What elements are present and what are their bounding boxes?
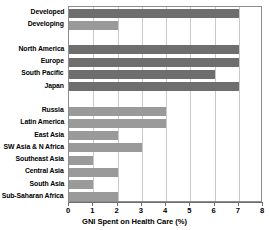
- bar: [69, 58, 239, 67]
- category-label: Sub-Saharan Africa: [2, 192, 64, 200]
- bar: [69, 192, 118, 201]
- x-tick-label: 2: [107, 206, 127, 215]
- category-label: Central Asia: [25, 167, 64, 175]
- bar: [69, 143, 142, 152]
- x-tick-label: 8: [252, 206, 269, 215]
- plot-area: [68, 6, 262, 202]
- category-label: Developed: [30, 8, 64, 16]
- bar: [69, 119, 166, 128]
- gridline-7: [239, 7, 240, 201]
- gridline-5: [190, 7, 191, 201]
- category-label: Russia: [42, 106, 64, 114]
- bar: [69, 70, 215, 79]
- bar: [69, 9, 239, 18]
- x-tick-label: 1: [82, 206, 102, 215]
- bar: [69, 168, 118, 177]
- x-tick-label: 6: [204, 206, 224, 215]
- bar-chart: DevelopedDevelopingNorth AmericaEuropeSo…: [0, 0, 269, 230]
- gridline-6: [215, 7, 216, 201]
- category-label: North America: [18, 45, 64, 53]
- category-label: South Asia: [29, 180, 64, 188]
- x-tick-label: 3: [131, 206, 151, 215]
- bar: [69, 82, 239, 91]
- gridline-4: [166, 7, 167, 201]
- category-label: Developing: [28, 20, 64, 28]
- bar: [69, 180, 93, 189]
- category-label: Southeast Asia: [16, 155, 64, 163]
- bar: [69, 21, 118, 30]
- bar: [69, 45, 239, 54]
- x-tick-label: 4: [155, 206, 175, 215]
- category-label: SW Asia & N Africa: [4, 143, 64, 151]
- gridline-2: [118, 7, 119, 201]
- category-label: East Asia: [34, 131, 64, 139]
- category-label: Japan: [45, 82, 64, 90]
- x-tick-label: 0: [58, 206, 78, 215]
- category-label: Latin America: [20, 118, 64, 126]
- category-label: South Pacific: [22, 69, 64, 77]
- bar: [69, 107, 166, 116]
- category-axis-labels: DevelopedDevelopingNorth AmericaEuropeSo…: [0, 6, 66, 202]
- x-tick-label: 5: [179, 206, 199, 215]
- x-tick-label: 7: [228, 206, 248, 215]
- gridline-3: [142, 7, 143, 201]
- bar: [69, 156, 93, 165]
- bar: [69, 131, 118, 140]
- category-label: Europe: [41, 57, 64, 65]
- x-axis-title: GNI Spent on Health Care (%): [0, 217, 269, 226]
